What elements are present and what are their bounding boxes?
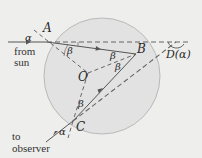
point-A-label: A	[43, 22, 52, 34]
deviation-label: D(α)	[166, 49, 191, 60]
beta-at-C-label: β	[78, 99, 84, 109]
beta-at-B-2-label: β	[115, 62, 121, 72]
point-B-label: B	[137, 43, 146, 55]
alpha-exit-label: α	[59, 127, 66, 137]
from-sun-line-2: sun	[14, 57, 29, 68]
rainbow-raindrop-diagram: A α β B β β O β C α D(α) from sun to obs…	[0, 0, 202, 158]
raindrop-circle	[44, 18, 160, 134]
point-O-label: O	[78, 71, 88, 83]
to-observer-line-2: observer	[12, 143, 50, 154]
point-C-label: C	[76, 121, 85, 133]
to-observer-line-1: to	[12, 131, 21, 142]
diagram-canvas	[0, 0, 202, 158]
beta-at-B-1-label: β	[110, 51, 116, 61]
beta-at-A-label: β	[67, 46, 73, 56]
alpha-incident-label: α	[25, 33, 32, 43]
